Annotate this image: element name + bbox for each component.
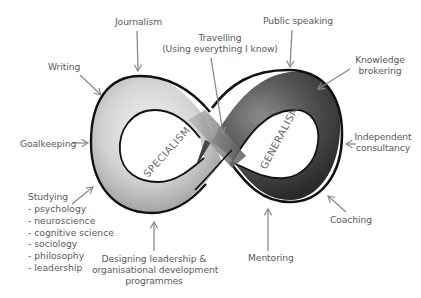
arrow-journalism bbox=[137, 31, 138, 71]
studying-item: - sociology bbox=[28, 238, 114, 250]
studying-item: - neuroscience bbox=[28, 215, 114, 227]
label-coaching: Coaching bbox=[330, 214, 372, 225]
label-travelling-line2: (Using everything I know) bbox=[160, 43, 280, 54]
label-designing-line1: Designing leadership & bbox=[92, 253, 216, 264]
label-writing: Writing bbox=[48, 61, 80, 72]
label-mentoring: Mentoring bbox=[248, 252, 294, 263]
arrow-public-speaking bbox=[290, 30, 292, 67]
label-public-speaking: Public speaking bbox=[263, 15, 333, 26]
generalism-loop bbox=[188, 70, 342, 202]
label-independent-consultancy: Independent consultancy bbox=[350, 131, 416, 153]
studying-item: - psychology bbox=[28, 203, 114, 215]
label-travelling-line1: Travelling bbox=[160, 32, 280, 43]
label-goalkeeping: Goalkeeping bbox=[20, 138, 76, 149]
label-designing-line2: organisational development bbox=[92, 264, 216, 275]
label-studying: Studying bbox=[28, 191, 68, 202]
specialism-loop bbox=[91, 76, 222, 213]
arrow-coaching bbox=[328, 196, 346, 212]
arrow-knowledge-brokering bbox=[318, 69, 350, 89]
label-knowledge-brokering: Knowledge brokering bbox=[350, 54, 410, 76]
label-knowledge-line2: brokering bbox=[350, 65, 410, 76]
label-designing: Designing leadership & organisational de… bbox=[92, 253, 216, 286]
label-independent-line1: Independent bbox=[350, 131, 416, 142]
label-journalism: Journalism bbox=[115, 16, 162, 27]
label-designing-line3: programmes bbox=[92, 275, 216, 286]
label-travelling: Travelling (Using everything I know) bbox=[160, 32, 280, 54]
studying-item: - cognitive science bbox=[28, 227, 114, 239]
label-independent-line2: consultancy bbox=[350, 142, 416, 153]
arrow-studying bbox=[72, 187, 93, 204]
label-knowledge-line1: Knowledge bbox=[350, 54, 410, 65]
arrow-writing bbox=[80, 75, 101, 95]
